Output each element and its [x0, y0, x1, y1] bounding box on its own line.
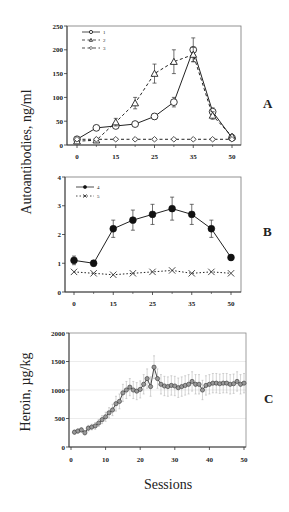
- y-tick-label: 3: [58, 202, 62, 210]
- marker-open-triangle: [112, 119, 119, 125]
- x-tick-label: 50: [229, 153, 237, 161]
- x-tick-label: 35: [188, 300, 196, 308]
- x-tick-label: 15: [110, 300, 118, 308]
- marker-filled-circle: [71, 257, 78, 264]
- marker-gray-circle: [100, 418, 104, 422]
- x-tick-label: 40: [206, 456, 214, 464]
- legend-label: 1: [103, 30, 106, 35]
- marker-open-circle: [132, 121, 139, 128]
- marker-gray-circle: [187, 382, 191, 386]
- marker-gray-circle: [124, 388, 128, 392]
- marker-diamond: [190, 136, 196, 142]
- marker-gray-circle: [142, 382, 146, 386]
- y-tick-label: 4: [58, 174, 62, 182]
- panel-a-chart: 050100150200250015253550123: [53, 23, 242, 162]
- marker-gray-circle: [155, 377, 159, 381]
- y-tick-label: 0: [62, 444, 66, 452]
- marker-filled-circle: [188, 211, 195, 218]
- x-tick-label: 20: [137, 456, 145, 464]
- y-tick-label: 1000: [51, 387, 66, 395]
- marker-open-triangle: [170, 58, 177, 64]
- y-axis-title-autoantibodies: Autoantibodies, ng/ml: [19, 89, 34, 214]
- marker-gray-circle: [83, 431, 87, 435]
- panel-letter-b: B: [263, 224, 272, 239]
- marker-gray-circle: [104, 415, 108, 419]
- marker-filled-circle: [83, 185, 86, 188]
- legend-label: 2: [103, 38, 106, 43]
- y-tick-label: 250: [53, 23, 64, 31]
- marker-open-circle: [151, 113, 158, 120]
- legend-label: 4: [97, 185, 100, 190]
- marker-gray-circle: [148, 384, 152, 388]
- marker-filled-circle: [208, 225, 215, 232]
- y-tick-label: 2000: [51, 330, 66, 338]
- marker-gray-circle: [107, 411, 111, 415]
- y-tick-label: 0: [58, 289, 62, 297]
- marker-diamond: [210, 136, 216, 142]
- series-4: [71, 197, 235, 267]
- marker-gray-circle: [197, 382, 201, 386]
- marker-diamond: [89, 46, 92, 49]
- marker-filled-circle: [90, 260, 97, 267]
- series-5: [71, 267, 234, 278]
- x-tick-label: 25: [151, 153, 159, 161]
- marker-gray-circle: [235, 379, 239, 383]
- x-tick-label: 10: [102, 456, 110, 464]
- marker-gray-circle: [128, 385, 132, 389]
- legend: 45: [76, 185, 100, 199]
- marker-diamond: [132, 136, 138, 142]
- x-tick-label: 0: [75, 153, 79, 161]
- marker-filled-circle: [169, 205, 176, 212]
- marker-gray-circle: [110, 408, 114, 412]
- marker-diamond: [152, 136, 158, 142]
- y-tick-label: 100: [53, 94, 64, 102]
- panel-letter-a: A: [263, 96, 273, 111]
- marker-filled-circle: [129, 217, 136, 224]
- x-tick-label: 50: [228, 300, 236, 308]
- marker-gray-circle: [190, 379, 194, 383]
- x-tick-label: 30: [171, 456, 179, 464]
- y-tick-label: 0: [60, 142, 64, 150]
- x-tick-label: 35: [190, 153, 198, 161]
- x-tick-label: 0: [69, 456, 73, 464]
- series-line: [74, 270, 231, 274]
- marker-gray-circle: [121, 391, 125, 395]
- legend-label: 3: [103, 46, 106, 51]
- figure: 050100150200250015253550123 012340152535…: [0, 0, 289, 512]
- marker-gray-circle: [145, 377, 149, 381]
- marker-diamond: [113, 136, 119, 142]
- y-tick-label: 50: [56, 118, 64, 126]
- marker-gray-circle: [97, 421, 101, 425]
- marker-open-triangle: [132, 100, 139, 106]
- marker-diamond: [171, 136, 177, 142]
- legend-label: 5: [97, 194, 100, 199]
- marker-open-triangle: [151, 70, 158, 76]
- x-tick-label: 0: [72, 300, 76, 308]
- panel-c-chart: 050010001500200001020304050: [51, 330, 248, 465]
- series-line: [77, 50, 232, 139]
- x-tick-label: 50: [241, 456, 249, 464]
- panel-b-chart: 0123401525355045: [58, 174, 242, 309]
- x-tick-label: 15: [112, 153, 120, 161]
- y-tick-label: 1: [58, 260, 62, 268]
- series-1: [74, 38, 236, 143]
- y-tick-label: 200: [53, 46, 64, 54]
- panel-letter-c: C: [264, 391, 273, 406]
- x-axis-title-sessions: Sessions: [144, 477, 192, 492]
- series-heroin: [72, 356, 246, 435]
- marker-gray-circle: [152, 365, 156, 369]
- marker-filled-circle: [110, 225, 117, 232]
- marker-filled-circle: [228, 254, 235, 261]
- y-tick-label: 500: [55, 415, 66, 423]
- y-tick-label: 150: [53, 70, 64, 78]
- marker-gray-circle: [138, 387, 142, 391]
- marker-gray-circle: [79, 428, 83, 432]
- marker-open-circle: [170, 99, 177, 106]
- marker-open-triangle: [89, 38, 92, 41]
- marker-open-circle: [89, 30, 92, 33]
- marker-gray-circle: [242, 381, 246, 385]
- y-axis-title-heroin: Heroin, µg/kg: [18, 353, 33, 432]
- marker-filled-circle: [149, 211, 156, 218]
- legend: 123: [82, 30, 106, 51]
- y-tick-label: 1500: [51, 358, 66, 366]
